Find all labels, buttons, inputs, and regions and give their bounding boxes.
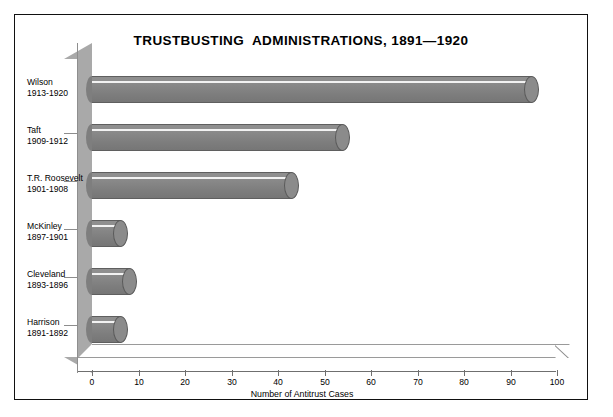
bar-cap-mckinley [113, 220, 128, 247]
floor-front [78, 357, 556, 372]
floor-top [78, 344, 570, 358]
category-name-roosevelt: T.R. Roosevelt [27, 173, 83, 183]
category-label-cleveland: Cleveland1893-1896 [27, 269, 107, 290]
category-years-cleveland: 1893-1896 [27, 280, 68, 290]
category-name-mckinley: McKinley [27, 221, 62, 231]
category-label-taft: Taft1909-1912 [27, 125, 107, 146]
category-name-cleveland: Cleveland [27, 269, 65, 279]
plot-area: Wilson1913-1920 Taft1909-1912 T.R. Roose… [15, 15, 589, 401]
bar-wilson [92, 76, 531, 103]
x-tick-label-0: 0 [77, 377, 107, 387]
x-tick-label-90: 90 [496, 377, 526, 387]
x-tick-label-80: 80 [449, 377, 479, 387]
x-tick-70 [418, 370, 419, 376]
x-tick-label-10: 10 [124, 377, 154, 387]
category-years-harrison: 1891-1892 [27, 328, 68, 338]
floor-right-diagonal [555, 344, 570, 358]
category-years-taft: 1909-1912 [27, 136, 68, 146]
x-tick-90 [511, 370, 512, 376]
bar-cap-roosevelt [284, 172, 299, 199]
category-name-harrison: Harrison [27, 317, 59, 327]
x-tick-label-30: 30 [217, 377, 247, 387]
x-tick-80 [464, 370, 465, 376]
x-tick-40 [278, 370, 279, 376]
bar-taft [92, 124, 342, 151]
x-tick-label-60: 60 [356, 377, 386, 387]
category-label-mckinley: McKinley1897-1901 [27, 221, 107, 242]
bar-cap-taft [335, 124, 350, 151]
x-tick-50 [325, 370, 326, 376]
category-years-wilson: 1913-1920 [27, 88, 68, 98]
x-tick-label-100: 100 [542, 377, 572, 387]
category-label-wilson: Wilson1913-1920 [27, 77, 107, 98]
x-tick-20 [185, 370, 186, 376]
chart-frame: TRUSTBUSTING ADMINISTRATIONS, 1891—1920 [14, 14, 588, 400]
bar-roosevelt [92, 172, 291, 199]
x-tick-100 [557, 370, 558, 376]
x-tick-label-50: 50 [310, 377, 340, 387]
x-axis-title: Number of Antitrust Cases [15, 389, 589, 399]
category-label-roosevelt: T.R. Roosevelt1901-1908 [27, 173, 107, 194]
bar-cap-harrison [113, 316, 128, 343]
category-years-roosevelt: 1901-1908 [27, 184, 68, 194]
x-tick-label-20: 20 [170, 377, 200, 387]
x-tick-10 [139, 370, 140, 376]
bar-cap-cleveland [122, 268, 137, 295]
category-years-mckinley: 1897-1901 [27, 232, 68, 242]
x-tick-0 [92, 370, 93, 376]
chart-page: TRUSTBUSTING ADMINISTRATIONS, 1891—1920 [0, 0, 613, 417]
category-name-wilson: Wilson [27, 77, 53, 87]
x-tick-60 [371, 370, 372, 376]
x-tick-label-70: 70 [403, 377, 433, 387]
category-label-harrison: Harrison1891-1892 [27, 317, 107, 338]
bar-cap-wilson [524, 76, 539, 103]
x-tick-label-40: 40 [263, 377, 293, 387]
category-name-taft: Taft [27, 125, 41, 135]
floor-top-edge [92, 344, 570, 345]
x-tick-30 [232, 370, 233, 376]
